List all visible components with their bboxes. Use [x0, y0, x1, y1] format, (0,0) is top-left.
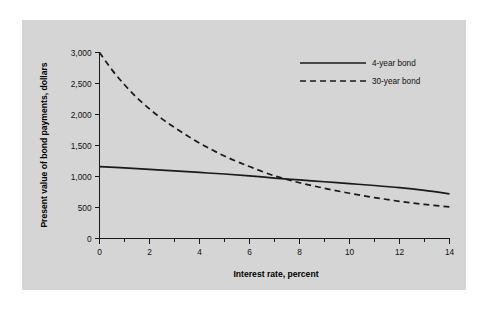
legend-label: 4-year bond: [372, 59, 416, 68]
x-axis-title: Interest rate, percent: [233, 269, 318, 279]
y-axis-tick-label: 3,000: [71, 48, 92, 58]
series-line-dashed: [100, 53, 450, 207]
series-line-solid: [100, 167, 450, 194]
x-axis-tick-label: 2: [147, 247, 152, 257]
y-axis-tick-label: 2,000: [71, 110, 92, 120]
x-axis-tick-label: 6: [247, 247, 252, 257]
x-axis-tick-label: 14: [445, 247, 455, 257]
y-axis-tick-label: 500: [78, 203, 92, 213]
x-axis-tick-label: 0: [97, 247, 102, 257]
legend-label: 30-year bond: [372, 77, 421, 86]
chart-plot-area: 05001,0001,5002,0002,5003,00002468101214…: [0, 0, 489, 312]
x-axis-tick-label: 12: [395, 247, 405, 257]
y-axis-tick-label: 1,000: [71, 172, 92, 182]
figure-container: 05001,0001,5002,0002,5003,00002468101214…: [0, 0, 489, 312]
chart-legend: 4-year bond30-year bond: [300, 59, 421, 86]
y-axis-title: Present value of bond payments, dollars: [39, 62, 49, 227]
y-axis-tick-label: 0: [87, 234, 92, 244]
x-axis-tick-label: 4: [197, 247, 202, 257]
y-axis-tick-label: 1,500: [71, 141, 92, 151]
series-group: [100, 53, 450, 207]
x-axis-tick-label: 10: [345, 247, 355, 257]
y-axis-tick-label: 2,500: [71, 79, 92, 89]
x-axis-tick-label: 8: [297, 247, 302, 257]
